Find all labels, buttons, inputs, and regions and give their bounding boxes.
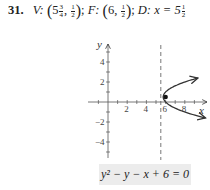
equation-box: y² − y − x + 6 = 0 [99,164,191,185]
x-axis-label: x [198,104,204,116]
parabola-upper-arm [163,78,198,97]
focus-point [163,95,168,100]
x-tick-label: 4 [143,104,148,114]
x-tick-label: 6 [163,104,168,114]
y-tick-label: 4 [100,57,105,67]
x-tick-label: 2 [124,104,129,114]
y-tick-label: −2 [95,117,105,127]
y-axis-label: y [96,38,102,50]
y-tick-label: 2 [100,77,105,87]
y-tick-label: −4 [95,137,105,147]
parabola-plot: xy2468−4−224 [0,0,210,190]
